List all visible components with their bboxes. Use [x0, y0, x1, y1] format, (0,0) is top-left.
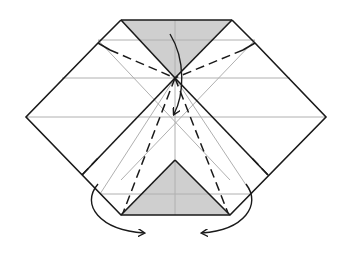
origami-diagram: [0, 0, 353, 254]
